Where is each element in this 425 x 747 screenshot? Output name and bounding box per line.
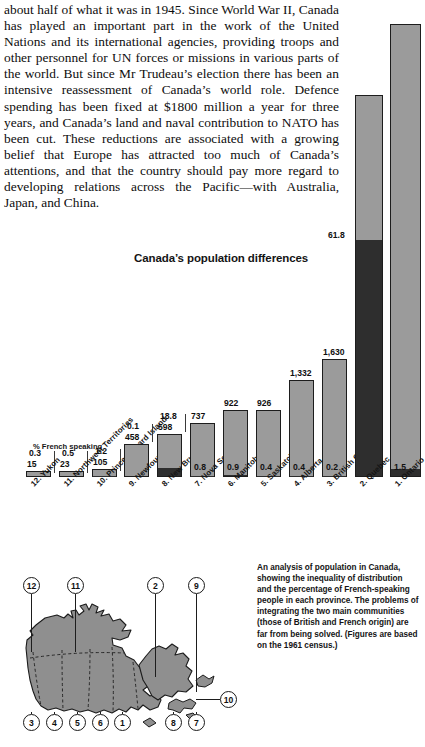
bar-population-label: 1,332	[290, 369, 312, 378]
map-callout-leader-line	[122, 712, 123, 714]
bar-french-percent-label: 61.8	[328, 231, 345, 240]
bar-population-label: 105	[93, 458, 107, 467]
bar-population-label: 23	[60, 460, 70, 469]
map-callout-7[interactable]: 7	[188, 714, 205, 731]
bar-population-label: 922	[224, 399, 238, 408]
bar-population-label: 15	[27, 460, 37, 469]
french-percent-leader-tick	[152, 424, 153, 442]
bar-chart-plot: 150.312. Yukon230.511. Northwest Territo…	[0, 0, 425, 480]
map-callout-5[interactable]: 5	[69, 714, 86, 731]
map-callout-8[interactable]: 8	[165, 714, 182, 731]
bar-french-percent-label: 0.3	[29, 449, 41, 458]
map-callout-leader-line	[54, 712, 55, 714]
bar-group	[322, 359, 347, 477]
bar-french-percent-label: 1.2	[95, 447, 107, 456]
bar-french-percent-label: 0.5	[62, 449, 74, 458]
canada-map: 121129103456187	[0, 552, 250, 747]
bar-population-label: 926	[257, 399, 271, 408]
chart-caption: An analysis of population in Canada, sho…	[257, 562, 419, 651]
bar	[390, 24, 421, 477]
map-callout-leader-line	[196, 699, 220, 700]
map-callout-leader-line	[31, 712, 32, 714]
map-callout-1[interactable]: 1	[114, 714, 131, 731]
map-callout-leader-line	[173, 712, 174, 714]
bar-french-percent-label: 18.8	[160, 412, 177, 421]
map-callout-3[interactable]: 3	[23, 714, 40, 731]
bar	[355, 95, 383, 477]
map-callout-9[interactable]: 9	[188, 577, 205, 594]
page-root: about half of what it was in 1945. Since…	[0, 0, 425, 747]
bar-group	[390, 24, 421, 477]
bar	[322, 359, 347, 477]
bar-population-label: 737	[191, 412, 205, 421]
map-callout-leader-line	[155, 594, 156, 677]
map-callout-6[interactable]: 6	[92, 714, 109, 731]
map-callout-11[interactable]: 11	[67, 577, 84, 594]
bar-french-percent-label: 0.1	[127, 422, 139, 431]
map-callout-leader-line	[196, 594, 197, 692]
map-callout-leader-line	[75, 594, 76, 652]
map-callout-leader-line	[100, 712, 101, 714]
map-callout-12[interactable]: 12	[23, 577, 40, 594]
map-callout-10[interactable]: 10	[220, 691, 237, 708]
bar-group	[355, 95, 383, 477]
bar-french-segment	[356, 240, 382, 476]
french-percent-leader-tick	[185, 414, 186, 432]
bar-population-label: 598	[158, 423, 172, 432]
bar-population-label: 1,630	[323, 348, 345, 357]
map-callout-leader-line	[31, 594, 32, 652]
map-callout-2[interactable]: 2	[147, 577, 164, 594]
bar-population-label: 458	[125, 433, 139, 442]
map-callout-leader-line	[196, 712, 197, 714]
map-callout-leader-line	[77, 712, 78, 714]
map-callout-4[interactable]: 4	[46, 714, 63, 731]
canada-landmass	[26, 604, 214, 727]
